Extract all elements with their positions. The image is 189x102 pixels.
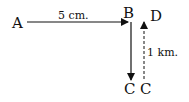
edge-cd-length-label: 1 km. — [147, 47, 178, 58]
point-a-label: A — [12, 16, 23, 31]
point-c-label-right: C — [140, 82, 151, 97]
point-b-label: B — [123, 6, 134, 21]
edge-ab-length-label: 5 cm. — [58, 10, 89, 21]
point-d-label: D — [150, 9, 162, 24]
point-c-label-left: C — [124, 82, 135, 97]
